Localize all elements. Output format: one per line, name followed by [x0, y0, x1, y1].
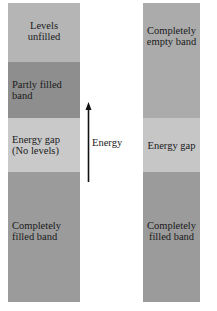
label-line: filled band [12, 231, 57, 242]
band-label: Completely filled band [8, 220, 80, 242]
band-label: Energy gap (No levels) [8, 134, 80, 156]
label-line: Completely [147, 25, 196, 36]
completely-empty-band: Completely empty band [143, 3, 200, 118]
label-line: filled band [149, 231, 194, 242]
energy-gap-band: Energy gap [143, 118, 200, 172]
label-line: Completely [12, 220, 61, 231]
energy-axis-label: Energy [92, 137, 122, 148]
partly-filled-band: Partly filled band [8, 62, 80, 118]
label-line: empty band [147, 36, 196, 47]
label-line: band [12, 90, 32, 101]
label-line: unfilled [28, 31, 61, 42]
completely-filled-band: Completely filled band [143, 172, 200, 302]
label-line: Levels [30, 20, 58, 31]
band-label: Completely empty band [143, 25, 200, 47]
completely-filled-band: Completely filled band [8, 172, 80, 302]
band-label: Levels unfilled [8, 20, 80, 42]
band-label: Partly filled band [8, 79, 80, 101]
band-label: Energy gap [143, 140, 200, 151]
band-label: Completely filled band [143, 220, 200, 242]
levels-unfilled-band: Levels unfilled [8, 3, 80, 62]
label-line: Completely [147, 220, 196, 231]
energy-arrow-icon [85, 102, 92, 182]
energy-gap-band: Energy gap (No levels) [8, 118, 80, 172]
label-line: Energy gap [12, 134, 60, 145]
label-line: Energy gap [148, 140, 196, 151]
label-line: (No levels) [12, 145, 59, 156]
label-line: Partly filled [12, 79, 62, 90]
